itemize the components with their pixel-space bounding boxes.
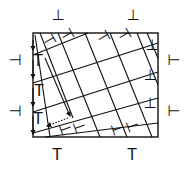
dislocation-symbol-inner: T [32,110,43,128]
dislocation-symbol-bottom: T [126,146,137,164]
inner-dislocation-symbols: ⊣⊣⊣⊣⊥⊥⊥TTT⊢⊢⊢⊢ [32,24,158,140]
dislocation-symbol-inner: ⊣ [114,24,134,46]
dislocation-symbol-inner: ⊥ [143,94,156,112]
dislocation-symbol-inner: ⊣ [93,26,113,48]
dislocation-symbol-inner: ⊣ [57,24,77,46]
dislocation-lattice-diagram: ⊥⊥TT⊣⊣⊢⊢ ⊣⊣⊣⊣⊥⊥⊥TTT⊢⊢⊢⊢ [0,0,188,170]
dislocation-symbol-inner: ⊥ [145,36,158,54]
dislocation-symbol-bottom: T [51,146,62,164]
dislocation-symbol-left: ⊣ [8,102,21,120]
dislocation-symbol-right: ⊢ [167,51,180,69]
burgers-arrows [45,58,70,126]
dislocation-symbol-inner: T [33,82,44,100]
dislocation-symbol-inner: T [32,52,43,70]
dislocation-symbol-left: ⊣ [8,51,21,69]
dislocation-symbol-top: ⊥ [126,6,139,24]
dislocation-symbol-inner: ⊥ [143,66,156,84]
dislocation-symbol-top: ⊥ [51,6,64,24]
dislocation-symbol-right: ⊢ [167,102,180,120]
